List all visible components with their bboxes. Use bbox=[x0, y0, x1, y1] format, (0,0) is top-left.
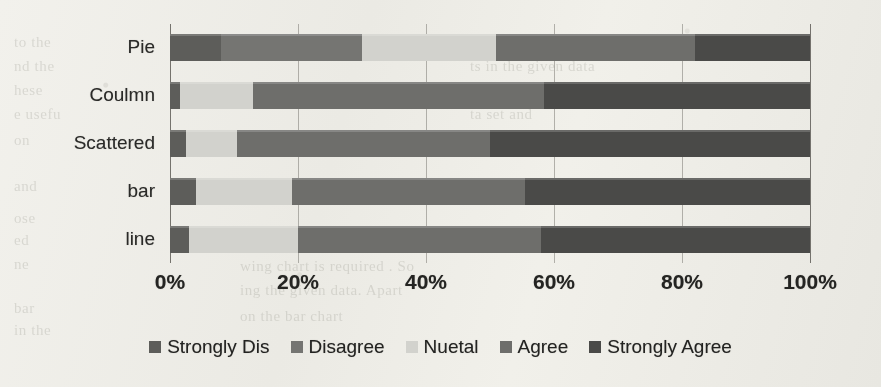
bar-row bbox=[170, 226, 810, 253]
bar-segment bbox=[196, 178, 292, 205]
bar-segment bbox=[180, 82, 254, 109]
tick-label-40: 40% bbox=[405, 270, 447, 294]
bar-segment bbox=[170, 34, 221, 61]
bar-segment bbox=[189, 226, 298, 253]
category-label-line: line bbox=[125, 228, 155, 250]
bar-segment bbox=[298, 226, 541, 253]
legend-item[interactable]: Nuetal bbox=[406, 336, 479, 358]
stacked-bar-chart: PieCoulmnScatteredbarline 0%20%40%60%80%… bbox=[0, 0, 881, 387]
category-label-scattered: Scattered bbox=[74, 132, 155, 154]
bar-segment bbox=[170, 82, 180, 109]
bar-segment bbox=[362, 34, 496, 61]
bar-segment bbox=[292, 178, 526, 205]
value-axis-tick-labels: 0%20%40%60%80%100% bbox=[0, 270, 881, 300]
bar-row bbox=[170, 130, 810, 157]
bar-segment bbox=[237, 130, 490, 157]
legend-label: Agree bbox=[518, 336, 569, 358]
square-swatch-icon bbox=[500, 341, 512, 353]
legend-label: Nuetal bbox=[424, 336, 479, 358]
bar-segment bbox=[496, 34, 694, 61]
legend-item[interactable]: Agree bbox=[500, 336, 569, 358]
bar-segment bbox=[170, 178, 196, 205]
tick-label-80: 80% bbox=[661, 270, 703, 294]
legend-item[interactable]: Strongly Agree bbox=[589, 336, 732, 358]
chart-legend: Strongly DisDisagreeNuetalAgreeStrongly … bbox=[0, 336, 881, 358]
bar-segment bbox=[695, 34, 810, 61]
bar-segment bbox=[525, 178, 810, 205]
bar-segment bbox=[221, 34, 362, 61]
bar-segment bbox=[490, 130, 810, 157]
bar-row bbox=[170, 178, 810, 205]
gridline-100 bbox=[810, 24, 811, 263]
square-swatch-icon bbox=[589, 341, 601, 353]
square-swatch-icon bbox=[406, 341, 418, 353]
legend-label: Disagree bbox=[309, 336, 385, 358]
tick-label-100: 100% bbox=[783, 270, 837, 294]
square-swatch-icon bbox=[149, 341, 161, 353]
tick-label-60: 60% bbox=[533, 270, 575, 294]
bar-segment bbox=[544, 82, 810, 109]
bar-row bbox=[170, 82, 810, 109]
square-swatch-icon bbox=[291, 341, 303, 353]
bar-segment bbox=[170, 130, 186, 157]
legend-label: Strongly Agree bbox=[607, 336, 732, 358]
bar-segment bbox=[170, 226, 189, 253]
tick-label-0: 0% bbox=[155, 270, 185, 294]
bar-row bbox=[170, 34, 810, 61]
bar-segment bbox=[186, 130, 237, 157]
category-label-bar: bar bbox=[128, 180, 155, 202]
tick-label-20: 20% bbox=[277, 270, 319, 294]
category-label-coulmn: Coulmn bbox=[90, 84, 155, 106]
legend-label: Strongly Dis bbox=[167, 336, 269, 358]
category-axis-labels: PieCoulmnScatteredbarline bbox=[0, 24, 163, 263]
legend-item[interactable]: Strongly Dis bbox=[149, 336, 269, 358]
bar-segment bbox=[541, 226, 810, 253]
category-label-pie: Pie bbox=[128, 36, 155, 58]
legend-item[interactable]: Disagree bbox=[291, 336, 385, 358]
plot-area bbox=[170, 24, 810, 263]
bar-segment bbox=[253, 82, 544, 109]
